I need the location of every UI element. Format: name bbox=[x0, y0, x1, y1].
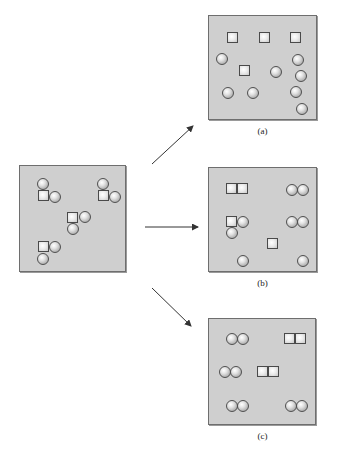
square-atom-icon bbox=[67, 212, 78, 223]
square-atom-icon bbox=[226, 216, 237, 227]
sphere-atom-icon bbox=[297, 255, 309, 267]
square-atom-icon bbox=[226, 183, 237, 194]
sphere-atom-icon bbox=[237, 400, 249, 412]
square-atom-icon bbox=[257, 366, 268, 377]
sphere-atom-icon bbox=[37, 178, 49, 190]
sphere-atom-icon bbox=[237, 255, 249, 267]
caption-a: (a) bbox=[208, 126, 317, 136]
square-atom-icon bbox=[239, 65, 250, 76]
sphere-atom-icon bbox=[297, 216, 309, 228]
square-atom-icon bbox=[295, 333, 306, 344]
sphere-atom-icon bbox=[296, 400, 308, 412]
sphere-atom-icon bbox=[237, 333, 249, 345]
sphere-atom-icon bbox=[296, 103, 308, 115]
arrow-to-c-icon bbox=[152, 288, 191, 326]
sphere-atom-icon bbox=[237, 216, 249, 228]
caption-b: (b) bbox=[208, 278, 317, 288]
sphere-atom-icon bbox=[270, 66, 282, 78]
sphere-atom-icon bbox=[295, 70, 307, 82]
square-atom-icon bbox=[98, 190, 109, 201]
sphere-atom-icon bbox=[297, 184, 309, 196]
sphere-atom-icon bbox=[49, 191, 61, 203]
outcome-b-panel bbox=[208, 167, 317, 272]
square-atom-icon bbox=[38, 190, 49, 201]
square-atom-icon bbox=[227, 32, 238, 43]
square-atom-icon bbox=[38, 241, 49, 252]
square-atom-icon bbox=[290, 32, 301, 43]
square-atom-icon bbox=[237, 183, 248, 194]
sphere-atom-icon bbox=[109, 191, 121, 203]
outcome-a-panel bbox=[208, 15, 317, 120]
sphere-atom-icon bbox=[226, 227, 238, 239]
sphere-atom-icon bbox=[79, 211, 91, 223]
sphere-atom-icon bbox=[247, 87, 259, 99]
initial-state-panel bbox=[19, 165, 126, 272]
sphere-atom-icon bbox=[230, 366, 242, 378]
outcome-c-panel bbox=[208, 318, 316, 425]
sphere-atom-icon bbox=[222, 87, 234, 99]
sphere-atom-icon bbox=[97, 178, 109, 190]
square-atom-icon bbox=[259, 32, 270, 43]
sphere-atom-icon bbox=[37, 253, 49, 265]
caption-c: (c) bbox=[208, 431, 317, 441]
sphere-atom-icon bbox=[216, 53, 228, 65]
sphere-atom-icon bbox=[290, 86, 302, 98]
sphere-atom-icon bbox=[292, 54, 304, 66]
square-atom-icon bbox=[284, 333, 295, 344]
square-atom-icon bbox=[267, 238, 278, 249]
sphere-atom-icon bbox=[67, 223, 79, 235]
sphere-atom-icon bbox=[49, 241, 61, 253]
arrow-to-a-icon bbox=[152, 126, 193, 164]
square-atom-icon bbox=[268, 366, 279, 377]
